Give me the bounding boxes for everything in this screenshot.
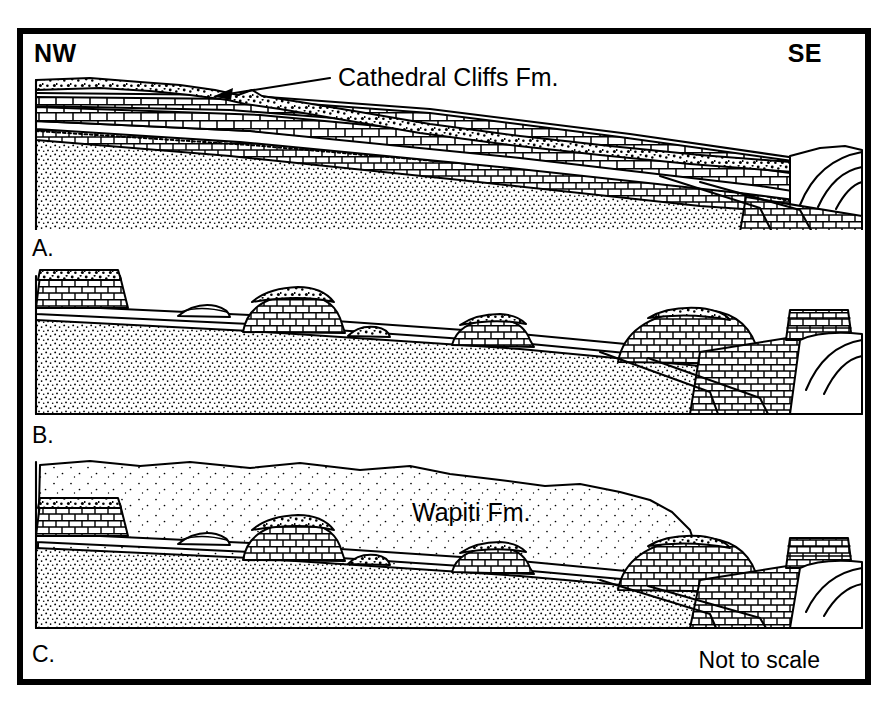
panel-label-c: C.	[32, 641, 55, 667]
annotation-wapiti: Wapiti Fm.	[412, 498, 531, 526]
panel-b-fold-nose	[790, 333, 862, 414]
scale-note: Not to scale	[699, 647, 820, 673]
compass-label-nw: NW	[34, 39, 77, 67]
annotation-cathedral-cliffs: Cathedral Cliffs Fm.	[338, 63, 558, 91]
panel-b	[36, 270, 862, 414]
cross-section-svg: NW SE Cathedral Cliffs Fm. A. B. C. Wapi…	[0, 0, 887, 702]
panel-c-mesa-left-cap	[38, 498, 121, 508]
geologic-cross-section-figure: NW SE Cathedral Cliffs Fm. A. B. C. Wapi…	[0, 0, 887, 702]
panel-b-mesa-left-cap	[38, 270, 121, 280]
compass-label-se: SE	[788, 39, 822, 67]
panel-label-b: B.	[32, 422, 54, 448]
panel-c	[36, 461, 862, 628]
panel-a	[36, 78, 862, 232]
panel-label-a: A.	[32, 235, 54, 261]
